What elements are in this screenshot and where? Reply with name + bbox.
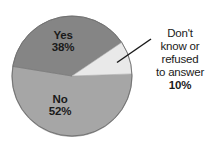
pie-label-dont-know-line3: refused xyxy=(140,53,220,66)
pie-label-yes-value: 38% xyxy=(33,41,93,53)
pie-label-dont-know-value: 10% xyxy=(140,79,220,92)
pie-label-no: No 52% xyxy=(30,93,90,117)
pie-label-dont-know-line1: Don't xyxy=(140,27,220,40)
pie-label-dont-know-line2: know or xyxy=(140,40,220,53)
pie-label-no-value: 52% xyxy=(30,105,90,117)
pie-chart: Yes 38% No 52% Don't know or refused to … xyxy=(0,0,223,151)
pie-label-yes: Yes 38% xyxy=(33,29,93,53)
pie-label-dont-know: Don't know or refused to answer 10% xyxy=(140,27,220,92)
pie-label-no-name: No xyxy=(30,93,90,105)
pie-label-yes-name: Yes xyxy=(33,29,93,41)
pie-label-dont-know-line4: to answer xyxy=(140,66,220,79)
